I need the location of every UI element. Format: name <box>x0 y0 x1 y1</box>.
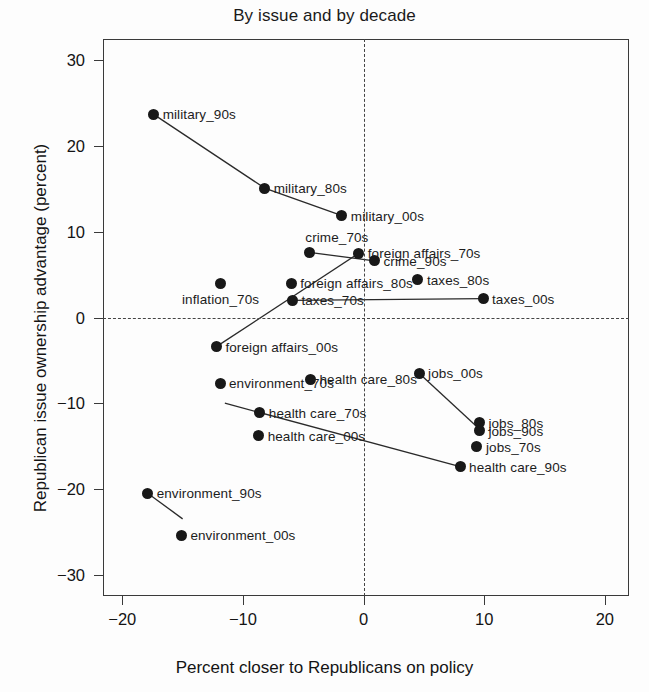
chart-page: By issue and by decade Republican issue … <box>0 0 649 692</box>
x-axis-tick-label: 20 <box>596 610 614 629</box>
data-point-label: health care_80s <box>320 372 418 387</box>
x-axis-tick-label: 0 <box>359 610 368 629</box>
data-point-label: crime_70s <box>305 230 368 245</box>
zero-horizontal-reference-line <box>103 318 629 319</box>
y-axis-title-container: Republican issue ownership advantage (pe… <box>10 0 36 640</box>
y-axis-tick-mark <box>94 146 103 147</box>
x-axis-tick-mark <box>484 596 485 605</box>
data-point-label: environment_00s <box>190 528 295 543</box>
x-axis-tick-mark <box>122 596 123 605</box>
y-axis-tick-mark <box>94 318 103 319</box>
y-axis-tick-mark <box>94 403 103 404</box>
y-axis-tick-mark <box>94 60 103 61</box>
data-point-label: health care_00s <box>268 428 366 443</box>
y-axis-tick-label: 10 <box>43 222 85 241</box>
x-axis-tick-mark <box>605 596 606 605</box>
data-point[interactable] <box>254 407 265 418</box>
data-point-label: foreign affairs_80s <box>300 276 413 291</box>
data-point-label: taxes_00s <box>492 291 554 306</box>
data-point-label: military_80s <box>274 181 347 196</box>
y-axis-tick-label: −20 <box>43 479 85 498</box>
x-axis-tick-label: −10 <box>229 610 257 629</box>
data-point[interactable] <box>353 248 364 259</box>
data-point[interactable] <box>215 378 226 389</box>
data-point[interactable] <box>211 341 222 352</box>
data-point-label: jobs_90s <box>488 423 543 438</box>
y-axis-tick-label: 30 <box>43 51 85 70</box>
data-point[interactable] <box>176 530 187 541</box>
data-point[interactable] <box>287 295 298 306</box>
data-point-label: military_90s <box>163 107 236 122</box>
y-axis-tick-mark <box>94 232 103 233</box>
x-axis-tick-label: 10 <box>475 610 493 629</box>
data-point[interactable] <box>215 278 226 289</box>
data-point-label: crime_90s <box>383 253 446 268</box>
data-point-label: jobs_00s <box>428 366 483 381</box>
data-point[interactable] <box>412 274 423 285</box>
data-point-label: taxes_70s <box>301 293 363 308</box>
y-axis-tick-label: 20 <box>43 137 85 156</box>
y-axis-tick-label: −10 <box>43 394 85 413</box>
data-point-label: health care_70s <box>269 405 367 420</box>
series-line-crime <box>309 252 374 261</box>
data-point[interactable] <box>455 461 466 472</box>
x-axis-tick-label: −20 <box>108 610 136 629</box>
x-axis-title: Percent closer to Republicans on policy <box>0 658 649 678</box>
x-axis-tick-mark <box>243 596 244 605</box>
data-point-label: environment_70s <box>229 376 334 391</box>
data-point-label: military_00s <box>351 208 424 223</box>
data-point[interactable] <box>478 293 489 304</box>
y-axis-tick-mark <box>94 489 103 490</box>
series-line-jobs <box>419 373 479 429</box>
data-point-label: jobs_70s <box>486 439 541 454</box>
data-point[interactable] <box>304 247 315 258</box>
data-point[interactable] <box>142 488 153 499</box>
y-axis-tick-label: 0 <box>43 308 85 327</box>
data-point[interactable] <box>286 278 297 289</box>
data-point-label: foreign affairs_00s <box>225 339 338 354</box>
data-point[interactable] <box>474 425 485 436</box>
data-point-label: health care_90s <box>469 459 567 474</box>
y-axis-tick-mark <box>94 575 103 576</box>
plot-area: military_90smilitary_80smilitary_00scrim… <box>103 39 629 596</box>
data-point[interactable] <box>336 210 347 221</box>
chart-title: By issue and by decade <box>0 6 649 26</box>
data-point[interactable] <box>253 430 264 441</box>
data-point[interactable] <box>259 183 270 194</box>
data-point-label: environment_90s <box>157 486 262 501</box>
y-axis-tick-label: −30 <box>43 565 85 584</box>
series-line-military <box>154 114 342 215</box>
data-point[interactable] <box>471 441 482 452</box>
data-point-label: inflation_70s <box>182 292 259 307</box>
x-axis-tick-mark <box>364 596 365 605</box>
data-point[interactable] <box>148 109 159 120</box>
data-point-label: taxes_80s <box>427 272 489 287</box>
data-point[interactable] <box>369 255 380 266</box>
